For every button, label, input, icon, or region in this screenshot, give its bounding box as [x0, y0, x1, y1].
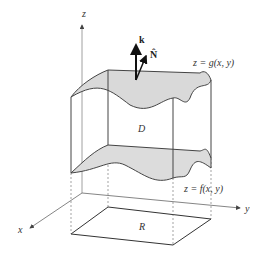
- x-axis: [30, 193, 82, 228]
- x-axis-label: x: [17, 224, 23, 235]
- base-label-R: R: [138, 221, 145, 232]
- top-surface-label: z = g(x, y): [192, 57, 235, 69]
- bottom-surface: [71, 145, 211, 180]
- z-axis-label: z: [81, 8, 86, 19]
- y-axis-label: y: [244, 203, 250, 214]
- y-axis: [82, 193, 240, 208]
- bottom-surface-label: z = f(x, y): [183, 183, 224, 195]
- solid-region-diagram: z y x k N̂ z = g(x, y) z = f(x, y) D R: [0, 0, 263, 258]
- k-vector-label: k: [139, 34, 145, 45]
- normal-vector-label: N̂: [150, 48, 158, 60]
- solid-label-D: D: [137, 123, 146, 134]
- top-surface: [71, 70, 211, 108]
- diagram-canvas: z y x k N̂ z = g(x, y) z = f(x, y) D R: [0, 0, 263, 258]
